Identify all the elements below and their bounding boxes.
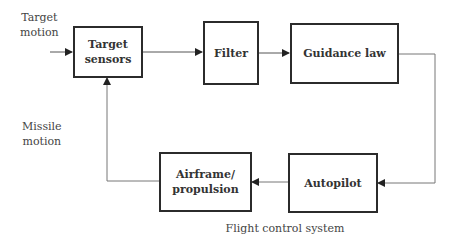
missile-motion-line2: motion (22, 134, 62, 149)
block-label: Airframe/ (176, 167, 235, 182)
target-motion-line2: motion (20, 25, 59, 40)
block-label: sensors (85, 52, 132, 67)
missile-motion-label: Missile motion (22, 119, 62, 149)
block-label: propulsion (172, 182, 238, 197)
arrow-airframe-to-sensors (107, 78, 159, 181)
block-label: Target (88, 37, 128, 52)
block-label: Filter (214, 46, 248, 61)
target-motion-line1: Target (20, 10, 59, 25)
block-target-sensors: Target sensors (73, 26, 143, 78)
block-airframe-propulsion: Airframe/ propulsion (159, 152, 252, 212)
block-filter: Filter (203, 21, 259, 85)
target-motion-label: Target motion (20, 10, 59, 40)
block-autopilot: Autopilot (288, 153, 378, 213)
block-label: Autopilot (304, 176, 361, 191)
missile-motion-line1: Missile (22, 119, 62, 134)
block-guidance-law: Guidance law (290, 23, 399, 84)
block-label: Guidance law (303, 46, 386, 61)
diagram-caption: Flight control system (220, 221, 350, 236)
